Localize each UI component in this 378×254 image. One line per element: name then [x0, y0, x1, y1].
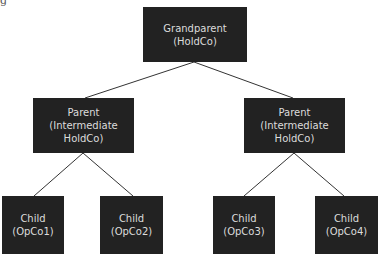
node-parent-right: Parent (Intermediate HoldCo): [244, 98, 345, 153]
node-child-opco2: Child (OpCo2): [100, 196, 163, 254]
node-child-opco3: Child (OpCo3): [213, 196, 275, 254]
edge-parent-right-child3: [244, 153, 294, 196]
node-label: Parent: [278, 106, 310, 119]
node-sublabel: HoldCo): [275, 132, 315, 145]
node-label: Child: [119, 212, 144, 225]
edge-parent-left-child2: [83, 153, 133, 196]
node-label: Child: [231, 212, 256, 225]
node-label: Parent: [67, 106, 99, 119]
node-label: Grandparent: [163, 22, 226, 35]
edge-grandparent-parent-right: [194, 62, 293, 98]
node-sublabel: HoldCo): [64, 132, 104, 145]
node-grandparent: Grandparent (HoldCo): [143, 7, 247, 62]
node-label: Child: [334, 212, 359, 225]
node-sublabel: (Intermediate: [260, 119, 328, 132]
node-child-opco4: Child (OpCo4): [315, 196, 378, 254]
node-sublabel: (OpCo1): [12, 225, 53, 238]
node-sublabel: (OpCo3): [223, 225, 264, 238]
node-sublabel: (OpCo2): [111, 225, 152, 238]
edge-parent-left-child1: [34, 153, 83, 196]
node-sublabel: (Intermediate: [49, 119, 117, 132]
node-parent-left: Parent (Intermediate HoldCo): [33, 98, 134, 153]
node-label: Child: [20, 212, 45, 225]
edge-grandparent-parent-left: [85, 62, 194, 98]
edge-parent-right-child4: [294, 153, 344, 196]
node-sublabel: (HoldCo): [173, 35, 217, 48]
node-child-opco1: Child (OpCo1): [2, 196, 64, 254]
node-sublabel: (OpCo4): [326, 225, 367, 238]
